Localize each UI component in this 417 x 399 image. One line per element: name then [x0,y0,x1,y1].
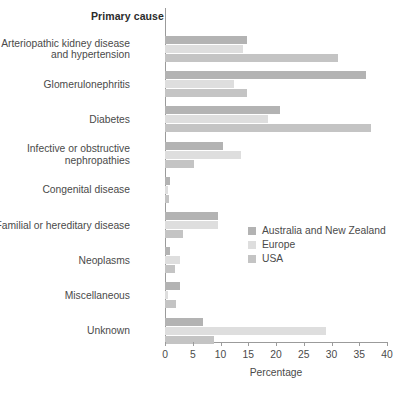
bar [165,230,183,238]
legend-swatch-icon [248,241,256,249]
x-axis-tick [332,342,333,346]
category-label: Glomerulonephritis [0,79,130,91]
bar-chart: Primary cause Arteriopathic kidney disea… [0,0,417,399]
x-axis-tick-label: 0 [162,349,168,360]
bar [165,212,218,220]
bar [165,195,169,203]
x-axis-tick [248,342,249,346]
legend-label: USA [262,253,283,264]
bar [165,265,175,273]
bar [165,124,371,132]
bar [165,177,170,185]
x-axis-tick [193,342,194,346]
bar [165,71,366,79]
category-label: Unknown [0,325,130,337]
legend-item: USA [248,252,386,265]
bar [165,54,338,62]
bar [165,160,194,168]
x-axis-tick [221,342,222,346]
bar [165,186,168,194]
bar [165,336,214,344]
x-axis-tick [387,342,388,346]
x-axis-tick [165,342,166,346]
bar [165,151,241,159]
category-axis-title: Primary cause [91,10,164,22]
legend-swatch-icon [248,227,256,235]
category-label: Familial or hereditary disease [0,220,130,232]
x-axis-tick-label: 5 [190,349,196,360]
bar [165,256,180,264]
bar [165,80,234,88]
chart-legend: Australia and New ZealandEuropeUSA [248,224,386,266]
x-axis-tick-label: 15 [243,349,254,360]
x-axis-tick-label: 10 [215,349,226,360]
bar [165,89,247,97]
x-axis-tick-label: 20 [270,349,281,360]
legend-label: Europe [262,239,295,250]
category-label: Neoplasms [0,255,130,267]
bar [165,327,326,335]
bar [165,106,280,114]
category-label: Congenital disease [0,184,130,196]
bar [165,291,168,299]
plot-area: Arteriopathic kidney disease and hyperte… [165,24,387,341]
bar [165,45,243,53]
x-axis-tick [304,342,305,346]
x-axis-tick-label: 35 [354,349,365,360]
x-axis-tick-label: 40 [381,349,392,360]
legend-label: Australia and New Zealand [262,225,386,236]
bar [165,142,223,150]
x-axis-title: Percentage [165,367,387,378]
legend-item: Australia and New Zealand [248,224,386,237]
x-axis-tick-label: 30 [326,349,337,360]
bar [165,115,268,123]
bar [165,247,170,255]
legend-item: Europe [248,238,386,251]
category-label: Miscellaneous [0,290,130,302]
bar [165,318,203,326]
bar [165,36,247,44]
bar [165,282,180,290]
bar [165,300,176,308]
x-axis-tick-label: 25 [298,349,309,360]
category-label: Diabetes [0,114,130,126]
x-axis-tick [276,342,277,346]
category-label: Infective or obstructive nephropathies [0,143,130,167]
legend-swatch-icon [248,255,256,263]
x-axis-tick [359,342,360,346]
bar [165,221,218,229]
category-label: Arteriopathic kidney disease and hyperte… [0,38,130,62]
